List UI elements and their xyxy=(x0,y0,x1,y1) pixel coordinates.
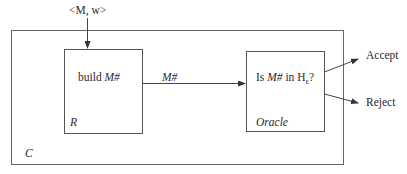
reject-label: Reject xyxy=(366,97,395,109)
oracle-text-suffix: ? xyxy=(309,71,314,83)
outer-box-label: C xyxy=(25,148,33,160)
edge-label: M# xyxy=(162,72,177,84)
input-label: <M, w> xyxy=(69,5,106,17)
reducer-text-var: M# xyxy=(105,71,120,83)
reject-arrow xyxy=(325,94,359,103)
diagram-canvas xyxy=(0,0,407,174)
reducer-text-prefix: build xyxy=(78,71,105,83)
oracle-text-prefix: Is xyxy=(256,71,267,83)
oracle-box-label: Oracle xyxy=(256,117,288,129)
outer-box-c xyxy=(12,31,344,165)
oracle-box-text: Is M# in Hε? xyxy=(256,72,314,86)
accept-arrow xyxy=(325,59,359,72)
accept-label: Accept xyxy=(366,50,399,62)
oracle-text-mid: in H xyxy=(283,71,306,83)
reducer-box-text: build M# xyxy=(78,72,120,84)
reducer-box-label: R xyxy=(70,117,77,129)
oracle-text-var: M# xyxy=(267,71,282,83)
